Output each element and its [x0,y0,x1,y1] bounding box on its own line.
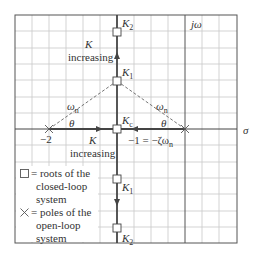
root-square-k2-top [113,28,121,36]
increasing-lower-label: increasing [70,147,115,159]
arrow-up-icon [114,52,120,59]
tick-minus-2: −2 [40,133,52,145]
omega-n-right-label: ωn [156,100,168,117]
root-square-k1-bottom [113,175,121,183]
root-square-kc [113,125,121,133]
legend-square-line-2: closed-loop [36,180,87,193]
increasing-upper-label: increasing [68,51,113,63]
breakaway-label: −1 = −ζωn [128,134,173,151]
legend-cross-line-3: system [36,232,67,245]
omega-n-left-label: ωn [67,100,79,117]
root-square-k2-bottom [113,224,121,232]
theta-left-label: θ [69,117,74,129]
k1-bottom-label: K1 [122,181,133,198]
k2-bottom-label: K2 [122,232,133,249]
legend-cross-line-2: open-loop [36,219,81,232]
legend: = roots of the closed-loop system = pole… [16,166,98,242]
legend-cross-line-1: = poles of the [31,206,91,219]
legend-square-line-3: system [36,193,67,206]
imag-axis-label: jω [191,18,202,30]
arrow-down-icon [114,199,120,206]
k1-top-label: K1 [122,66,133,83]
root-square-k1-top [113,77,121,85]
arrow-right-icon [96,126,103,132]
legend-square-line-1: = roots of the [31,167,90,180]
legend-square-icon [20,169,30,179]
k2-top-label: K2 [122,17,133,34]
k-lower-label: K [89,134,96,146]
k-upper-label: K [85,38,92,50]
legend-cross-icon [20,208,30,218]
theta-right-label: θ [161,117,166,129]
real-axis-label: σ [243,124,248,136]
kc-label: Kc [122,114,133,131]
